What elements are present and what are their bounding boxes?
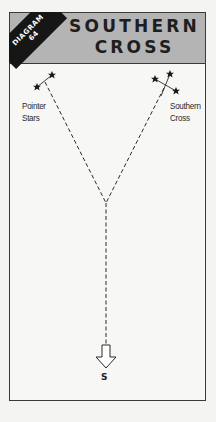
southern-cross-label: Southern Cross [170, 100, 201, 124]
cross-label-line-1: Southern [170, 100, 201, 112]
southern-cross-group [151, 70, 180, 96]
guide-lines [45, 82, 164, 345]
pointer-extension-line [45, 82, 106, 203]
pointer-star-icon [33, 83, 41, 91]
south-label: S [101, 372, 107, 382]
cross-star-icon [151, 75, 159, 83]
south-arrow-icon [96, 345, 116, 368]
star-diagram [0, 0, 216, 422]
cross-star-icon [172, 87, 180, 95]
pointer-label-line-2: Stars [22, 112, 46, 124]
cross-label-line-2: Cross [170, 112, 201, 124]
cross-axis-line [106, 88, 164, 203]
pointer-label-line-1: Pointer [22, 100, 46, 112]
cross-star-icon [166, 70, 174, 78]
pointer-stars-label: Pointer Stars [22, 100, 46, 124]
pointer-stars-group [33, 71, 56, 91]
